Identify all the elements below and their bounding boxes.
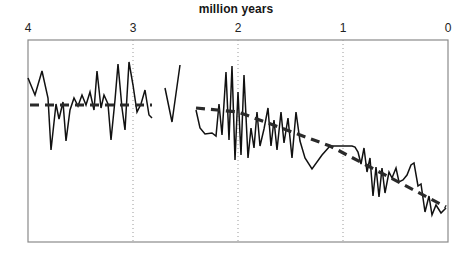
data-line-segment-2 xyxy=(165,65,180,122)
plot-area xyxy=(0,0,472,259)
chart-figure: million years 4 3 2 1 0 xyxy=(0,0,472,259)
data-series-group xyxy=(28,62,446,215)
gridlines xyxy=(133,40,343,242)
data-line-segment-3 xyxy=(196,66,446,215)
